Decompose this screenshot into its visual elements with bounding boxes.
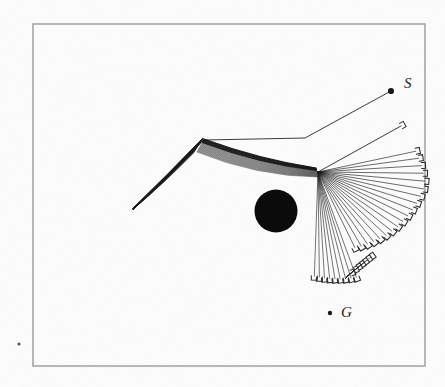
scan-grain <box>0 0 445 387</box>
goal-label: G <box>341 304 352 320</box>
start-label: S <box>404 75 412 91</box>
start-marker-dot <box>388 88 394 94</box>
figure-canvas: SG <box>0 0 445 387</box>
stray-speck <box>17 342 20 345</box>
goal-marker-dot <box>328 311 332 315</box>
circular-obstacle <box>255 190 298 233</box>
figure-container: SG <box>0 0 445 387</box>
